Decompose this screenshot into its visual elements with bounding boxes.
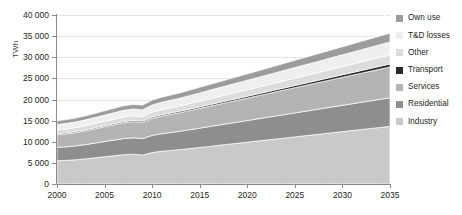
chart-legend: Own useT&D lossesOtherTransportServicesR… [396,10,462,130]
x-tick-label: 2020 [238,190,257,200]
stacked-area-series-group [57,15,390,184]
y-tick-label: 30 000 [0,52,49,62]
legend-swatch-own-use [396,15,403,22]
chart-figure: TWh 05 00010 00015 00020 00025 00030 000… [0,0,462,215]
legend-item-residential[interactable]: Residential [396,96,462,113]
legend-swatch-other [396,49,403,56]
x-tick-label: 2030 [333,190,352,200]
legend-item-other[interactable]: Other [396,44,462,61]
x-tick-mark [342,184,343,188]
y-tick-label: 0 [0,179,49,189]
y-tick-label: 20 000 [0,95,49,105]
legend-swatch-transport [396,67,403,74]
legend-item-transport[interactable]: Transport [396,62,462,79]
legend-label-t-d-losses: T&D losses [408,32,450,40]
legend-swatch-t-d-losses [396,32,403,39]
legend-item-industry[interactable]: Industry [396,113,462,130]
x-tick-label: 2000 [48,190,67,200]
x-axis-line [56,184,390,185]
legend-label-other: Other [408,49,428,57]
x-tick-label: 2015 [190,190,209,200]
legend-label-residential: Residential [408,100,449,108]
legend-label-transport: Transport [408,66,443,74]
x-tick-mark [200,184,201,188]
legend-label-services: Services [408,83,439,91]
x-tick-mark [247,184,248,188]
plot-area [57,15,390,184]
legend-swatch-residential [396,101,403,108]
x-tick-label: 2005 [95,190,114,200]
x-tick-label: 2010 [143,190,162,200]
legend-item-services[interactable]: Services [396,79,462,96]
x-tick-mark [57,184,58,188]
y-tick-label: 25 000 [0,73,49,83]
legend-label-industry: Industry [408,118,437,126]
x-tick-mark [295,184,296,188]
legend-item-t-d-losses[interactable]: T&D losses [396,27,462,44]
y-tick-label: 15 000 [0,116,49,126]
x-tick-mark [105,184,106,188]
legend-label-own-use: Own use [408,14,440,22]
x-tick-label: 2025 [285,190,304,200]
y-tick-label: 5 000 [0,158,49,168]
legend-swatch-industry [396,118,403,125]
y-tick-label: 10 000 [0,137,49,147]
legend-swatch-services [396,84,403,91]
x-tick-mark [152,184,153,188]
y-tick-label: 35 000 [0,31,49,41]
x-tick-label: 2035 [381,190,400,200]
legend-item-own-use[interactable]: Own use [396,10,462,27]
y-tick-label: 40 000 [0,10,49,20]
x-tick-mark [390,184,391,188]
